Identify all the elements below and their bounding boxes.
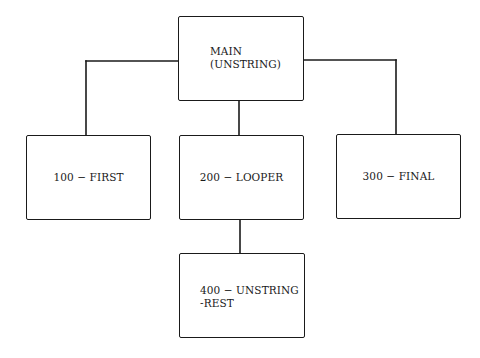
node-label: 200 − LOOPER — [200, 171, 284, 184]
hierarchy-diagram: MAIN (UNSTRING) 100 − FIRST 200 − LOOPER… — [0, 0, 480, 358]
node-100-first: 100 − FIRST — [26, 135, 151, 220]
node-200-looper: 200 − LOOPER — [179, 135, 304, 220]
node-main-unstring: MAIN (UNSTRING) — [178, 16, 304, 101]
node-label: 300 − FINAL — [363, 170, 435, 183]
node-label: 100 − FIRST — [53, 171, 123, 184]
node-400-unstring-rest: 400 − UNSTRING -REST — [179, 253, 305, 338]
node-label: MAIN (UNSTRING) — [210, 45, 281, 71]
node-label: 400 − UNSTRING -REST — [200, 284, 299, 310]
node-300-final: 300 − FINAL — [336, 134, 461, 219]
